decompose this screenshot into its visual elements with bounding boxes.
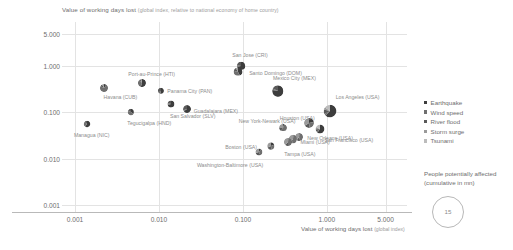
data-point-label: Mexico City (MEX) [273, 75, 316, 81]
legend-item-tsunami[interactable]: Tsunami [424, 137, 464, 144]
data-point-bubble[interactable] [315, 124, 324, 133]
chart-title: Value of working days lost (global index… [62, 6, 279, 13]
legend-swatch-icon [424, 120, 427, 123]
x-axis-title: Value of working days lost (global index… [301, 225, 405, 232]
data-point-bubble[interactable] [324, 105, 337, 118]
data-point-label: Miami (USA) [300, 139, 329, 145]
y-axis-tick-label: 1.000 [43, 63, 60, 70]
legend-swatch-icon [424, 130, 427, 133]
data-point-label: Panama City (PAN) [167, 88, 212, 94]
data-point-label: Boston (USA) [225, 144, 257, 150]
data-point-bubble[interactable] [127, 109, 134, 116]
y-axis-tick-label: 0.100 [43, 109, 60, 116]
y-gridline [62, 205, 407, 206]
data-point-bubble[interactable] [272, 85, 284, 97]
legend-item-wind-speed[interactable]: Wind speed [424, 109, 464, 116]
x-gridline [386, 22, 387, 212]
size-legend-value: 15 [445, 208, 452, 215]
data-point-bubble[interactable] [168, 100, 175, 107]
x-axis-tick-label: 0.010 [151, 216, 168, 223]
pie-slice [279, 124, 283, 128]
legend-item-label: Storm surge [431, 128, 465, 135]
size-legend-circle: 15 [432, 196, 464, 228]
x-axis-title-main: Value of working days lost [301, 225, 372, 232]
data-point-bubble[interactable] [255, 148, 262, 155]
legend-swatch-icon [424, 101, 427, 104]
y-axis-tick-label: 5.000 [43, 30, 60, 37]
legend-swatch-icon [424, 139, 427, 142]
data-point-label: Houston (USA) [280, 115, 315, 121]
data-point-label: San Salvador (SLV) [170, 113, 215, 119]
data-point-bubble[interactable] [183, 105, 191, 113]
data-point-bubble[interactable] [84, 121, 90, 127]
x-gridline [159, 22, 160, 212]
y-axis-tick-label: 0.010 [43, 155, 60, 162]
x-axis-title-sub: (global index) [374, 226, 405, 232]
data-point-bubble[interactable] [267, 142, 275, 150]
y-gridline [62, 159, 407, 160]
x-axis-line [12, 212, 412, 213]
legend-item-river-flood[interactable]: River flood [424, 118, 464, 125]
legend-item-label: River flood [431, 118, 461, 125]
y-gridline [62, 34, 407, 35]
size-legend-caption: People potentially affected (cumulative … [424, 170, 508, 188]
bubble-chart: Value of working days lost (global index… [0, 0, 513, 250]
x-axis-tick-label: 0.100 [235, 216, 252, 223]
x-axis-tick-label: 0.001 [67, 216, 84, 223]
hazard-legend: EarthquakeWind speedRiver floodStorm sur… [424, 99, 464, 147]
data-point-bubble[interactable] [158, 88, 164, 94]
legend-item-label: Earthquake [431, 99, 463, 106]
x-axis-tick-label: 5.000 [377, 216, 394, 223]
pie-slice [158, 88, 161, 91]
pie-slice [288, 138, 292, 146]
legend-item-storm-surge[interactable]: Storm surge [424, 128, 464, 135]
data-point-label: Managua (NIC) [74, 132, 109, 138]
y-gridline [62, 66, 407, 67]
x-gridline [75, 22, 76, 212]
x-axis-tick-label: 1.000 [319, 216, 336, 223]
chart-title-sub: (global index, relative to national econ… [138, 7, 279, 13]
chart-title-main: Value of working days lost [62, 6, 136, 13]
data-point-bubble[interactable] [100, 84, 108, 92]
data-point-label: Tampa (USA) [284, 151, 315, 157]
data-point-bubble[interactable] [137, 79, 145, 87]
data-point-bubble[interactable] [283, 138, 291, 146]
legend-swatch-icon [424, 110, 427, 113]
legend-item-earthquake[interactable]: Earthquake [424, 99, 464, 106]
data-point-label: San Jose (CRI) [232, 52, 267, 58]
data-point-bubble[interactable] [279, 124, 287, 132]
data-point-label: Port-au-Prince (HTI) [128, 71, 175, 77]
legend-item-label: Wind speed [431, 109, 464, 116]
data-point-label: Havana (CUB) [104, 94, 138, 100]
data-point-label: Los Angeles (USA) [336, 94, 380, 100]
legend-item-label: Tsunami [431, 137, 454, 144]
y-axis-tick-label: 0.001 [43, 201, 60, 208]
data-point-label: Washington-Baltimore (USA) [197, 162, 263, 168]
plot-area: 0.0010.0100.1001.0005.0000.0010.0100.100… [62, 22, 407, 212]
size-legend: People potentially affected (cumulative … [424, 170, 508, 228]
pie-slice [309, 122, 314, 128]
data-point-label: Tegucigalpa (HND) [127, 120, 171, 126]
data-point-bubble[interactable] [234, 67, 243, 76]
